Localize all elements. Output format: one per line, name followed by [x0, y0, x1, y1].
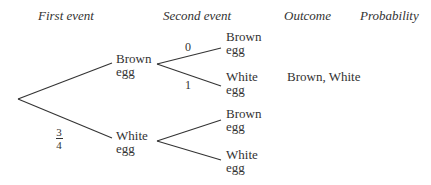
node-second-white-brown-egg: Brown egg [226, 107, 261, 133]
branch-root-to-white [18, 99, 112, 138]
node-label-line2: egg [116, 142, 148, 155]
node-label-line2: egg [226, 120, 261, 133]
fraction-denominator: 4 [56, 139, 62, 151]
node-second-brown-white-egg: White egg [226, 70, 258, 96]
branch-root-to-brown [18, 63, 112, 99]
node-label-line2: egg [116, 65, 151, 78]
fraction-numerator: 3 [56, 126, 62, 138]
prob-first-white: 3 4 [53, 127, 65, 150]
header-first-event: First event [38, 8, 94, 24]
tree-branches [0, 0, 431, 185]
prob-brown-then-white: 1 [185, 78, 191, 93]
branch-white-to-white [157, 141, 221, 160]
node-label-line2: egg [226, 43, 261, 56]
header-second-event: Second event [163, 8, 231, 24]
outcome-brown-white: Brown, White [287, 70, 360, 83]
node-second-brown-brown-egg: Brown egg [226, 30, 261, 56]
node-first-brown-egg: Brown egg [116, 52, 151, 78]
header-outcome: Outcome [284, 8, 331, 24]
header-probability: Probability [360, 8, 419, 24]
node-label-line2: egg [226, 161, 258, 174]
node-second-white-white-egg: White egg [226, 148, 258, 174]
prob-brown-then-brown: 0 [185, 40, 191, 55]
node-first-white-egg: White egg [116, 129, 148, 155]
node-label-line2: egg [226, 83, 258, 96]
branch-white-to-brown [157, 120, 221, 141]
